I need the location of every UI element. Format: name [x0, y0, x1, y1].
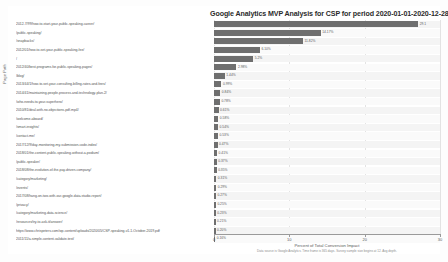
bar-category-label: /events/	[16, 186, 214, 190]
bar-track	[214, 201, 440, 208]
gridline	[440, 20, 441, 234]
bar-row: 2014/41/maintaining-people-process-and-t…	[16, 89, 440, 98]
bar-category-label: 2018/08/the-evolution-of-the-pay-driven-…	[16, 168, 214, 172]
bar-row: 2010/81/deal-with-no-objections-pdf-mp4/…	[16, 106, 440, 115]
bar-cell: 0.53%	[214, 132, 440, 141]
bar-cell: 6.10%	[214, 46, 440, 55]
bar-cell: 0.29%	[214, 183, 440, 192]
bar-value-label: 0.29%	[216, 185, 227, 190]
bar-cell: 0.99%	[214, 80, 440, 89]
bar-row: 2018/01/the-content-public-speaking-with…	[16, 149, 440, 158]
bar-cell: 0.61%	[214, 106, 440, 115]
bar-category-label: 2018/01/the-content-public-speaking-with…	[16, 151, 214, 155]
bar-value-label: 2.98%	[236, 65, 247, 70]
bar-cell: 2.98%	[214, 63, 440, 72]
bar-category-label: /welcome-aboard/	[16, 117, 214, 121]
bar-cell: 0.37%	[214, 158, 440, 167]
bar	[214, 64, 236, 70]
bar-row: /category/marketing/0.31%	[16, 175, 440, 184]
bar-row: /privacy/0.25%	[16, 200, 440, 209]
bar-category-label: 2014/41/maintaining-people-process-and-t…	[16, 91, 214, 95]
bar-value-label: 1.44%	[225, 73, 236, 78]
bar-track	[214, 158, 440, 165]
bar-cell: 0.78%	[214, 97, 440, 106]
bar-category-label: /public-speaking/	[16, 31, 214, 35]
bar-value-label: 6.10%	[260, 47, 271, 52]
bar-row: 2012/40/best-programs-for-public-speakin…	[16, 63, 440, 72]
bar-category-label: /resources/try-to-ask-it/answer/	[16, 220, 214, 224]
bar-category-label: /who-needs-to-your-superhero/	[16, 100, 214, 104]
bar	[214, 21, 418, 27]
bar-row: /public-speaker/0.37%	[16, 158, 440, 167]
bar-category-label: 2017/12/9/day-monitoring-my-submission-c…	[16, 143, 214, 147]
bar-category-label: /public-speaker/	[16, 160, 214, 164]
x-tick-label: 10	[287, 237, 291, 242]
bar-cell: 0.58%	[214, 115, 440, 124]
bar-category-label: /smart-insights/	[16, 125, 214, 129]
bar-category-label: 2012/01/how-to-set-your-public-speaking-…	[16, 48, 214, 52]
x-tick-label: 30	[438, 237, 442, 242]
bar-value-label: 0.54%	[218, 125, 229, 130]
bar-category-label: 2017/08/hang-on-two-with-our-google-data…	[16, 194, 214, 198]
bar-rows: 2012-7/99/how-to-start-your-public-speak…	[16, 20, 440, 234]
bar-category-label: https://www.chrispeters.com/wp-content/u…	[16, 229, 214, 233]
bar-value-label: 0.84%	[220, 90, 231, 95]
bar-track	[214, 81, 440, 88]
bar-row: /5.2%	[16, 54, 440, 63]
x-axis: 0102030 Percent of Total Conversion Impa…	[214, 234, 440, 254]
bar-track	[214, 184, 440, 191]
bar-value-label: 0.25%	[216, 202, 227, 207]
bar-cell: 0.25%	[214, 200, 440, 209]
bar-category-label: /category/marketing/	[16, 177, 214, 181]
bar-row: /smart-insights/0.54%	[16, 123, 440, 132]
bar-value-label: 0.21%	[216, 219, 227, 224]
bar-cell: 0.31%	[214, 175, 440, 184]
bar-cell: 5.2%	[214, 54, 440, 63]
bar-row: /resources/try-to-ask-it/answer/0.21%	[16, 218, 440, 227]
bar-track	[214, 167, 440, 174]
bar-cell: 14.17%	[214, 29, 440, 38]
bar	[214, 56, 253, 62]
x-axis-label: Percent of Total Conversion Impact	[214, 243, 440, 248]
bar-cell: 29.1	[214, 20, 440, 29]
bar-value-label: 0.23%	[216, 211, 227, 216]
bar-category-label: 2011/11/a-simple-content-validate-test/	[16, 237, 214, 241]
bar-value-label: 0.58%	[218, 116, 229, 121]
bar-track	[214, 175, 440, 182]
bar-row: 2012/01/how-to-set-your-public-speaking-…	[16, 46, 440, 55]
bar-cell: 0.27%	[214, 192, 440, 201]
bar-row: 2012-7/99/how-to-start-your-public-speak…	[16, 20, 440, 29]
bar-value-label: 0.35%	[217, 168, 228, 173]
bar-cell: 0.54%	[214, 123, 440, 132]
bar-cell: 0.21%	[214, 218, 440, 227]
bar-cell: 1.44%	[214, 72, 440, 81]
bar-track	[214, 98, 440, 105]
x-tick-label: 20	[362, 237, 366, 242]
bar-category-label: 2013/44/1/how-to-set-your-consulting-bil…	[16, 82, 214, 86]
x-tick-label: 0	[213, 237, 215, 242]
bar-row: /who-needs-to-your-superhero/0.78%	[16, 97, 440, 106]
bar-value-label: 0.78%	[220, 99, 231, 104]
bar-category-label: /contact-me/	[16, 134, 214, 138]
bar-row: 2018/08/the-evolution-of-the-pay-driven-…	[16, 166, 440, 175]
bar-value-label: 14.17%	[321, 30, 334, 35]
bar-track	[214, 192, 440, 199]
bar-value-label: 11.82%	[303, 39, 315, 44]
chart-footnote: Data source is Google Analytics. Time fr…	[214, 249, 440, 253]
bar-value-label: 0.27%	[216, 193, 227, 198]
bar-row: /category/marketing-data-science/0.23%	[16, 209, 440, 218]
bar-track	[214, 124, 440, 131]
bar-row: 2013/44/1/how-to-set-your-consulting-bil…	[16, 80, 440, 89]
bar-value-label: 0.41%	[217, 151, 228, 156]
bar-category-label: /	[16, 57, 214, 61]
bar-value-label: 0.53%	[218, 133, 229, 138]
bar-value-label: 0.20%	[216, 228, 227, 233]
y-axis-label: Page Path	[2, 44, 7, 104]
bar-track	[214, 107, 440, 114]
bar	[214, 73, 225, 79]
bar-category-label: /privacy/	[16, 203, 214, 207]
bar-track	[214, 210, 440, 217]
bar	[214, 47, 260, 53]
bar-track	[214, 132, 440, 139]
bar-category-label: 2010/81/deal-with-no-objections-pdf-mp4/	[16, 108, 214, 112]
